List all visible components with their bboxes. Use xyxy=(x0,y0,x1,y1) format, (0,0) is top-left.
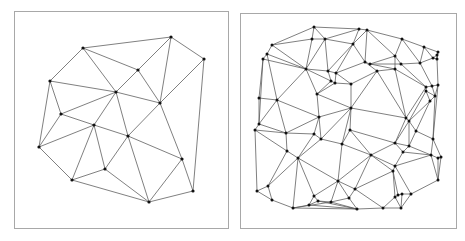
mesh-edge xyxy=(355,189,383,208)
mesh-edge xyxy=(437,59,438,85)
mesh-vertex xyxy=(271,44,274,47)
mesh-vertex xyxy=(370,154,373,157)
mesh-edge xyxy=(409,91,426,121)
mesh-edge xyxy=(438,157,441,180)
mesh-vertex xyxy=(401,193,404,196)
mesh-vertex xyxy=(369,63,372,66)
mesh-edge xyxy=(395,197,401,208)
mesh-edge xyxy=(321,139,342,144)
mesh-edge xyxy=(401,194,402,208)
mesh-edge xyxy=(351,71,377,84)
mesh-edge xyxy=(39,81,50,147)
mesh-vertex xyxy=(37,145,40,148)
mesh-edge xyxy=(160,37,171,103)
figure xyxy=(0,0,465,241)
mesh-vertex xyxy=(397,194,400,197)
mesh-edge xyxy=(317,94,319,117)
mesh-edge xyxy=(116,70,138,92)
mesh-edge xyxy=(335,73,336,83)
mesh-edge xyxy=(268,158,298,186)
mesh-vertex xyxy=(434,95,437,98)
mesh-edge xyxy=(72,180,149,202)
mesh-edge xyxy=(306,69,317,94)
mesh-vertex xyxy=(350,107,353,110)
mesh-vertex xyxy=(350,83,353,86)
mesh-edge xyxy=(72,125,94,180)
mesh-vertex xyxy=(59,112,62,115)
mesh-edge xyxy=(50,81,61,114)
mesh-vertex xyxy=(392,170,395,173)
mesh-vertex xyxy=(401,38,404,41)
mesh-edge xyxy=(420,58,433,63)
mesh-edge xyxy=(94,92,116,125)
mesh-edge xyxy=(325,39,353,44)
mesh-edge xyxy=(83,37,171,48)
mesh-edge xyxy=(353,44,365,62)
mesh-vertex xyxy=(317,200,320,203)
mesh-vertex xyxy=(437,179,440,182)
mesh-edge xyxy=(255,130,287,151)
mesh-vertex xyxy=(358,28,361,31)
mesh-vertex xyxy=(348,197,351,200)
mesh-edge xyxy=(409,101,430,121)
mesh-vertex xyxy=(432,138,435,141)
mesh-edge xyxy=(335,83,351,84)
mesh-vertex xyxy=(408,145,411,148)
mesh-edge xyxy=(325,29,359,39)
mesh-vertex xyxy=(114,90,117,93)
mesh-edge xyxy=(336,73,351,84)
mesh-vertex xyxy=(256,190,259,193)
mesh-vertex xyxy=(136,68,139,71)
mesh-edge xyxy=(272,200,293,208)
mesh-edge xyxy=(314,181,338,196)
mesh-vertex xyxy=(334,82,337,85)
mesh-vertex xyxy=(425,90,428,93)
mesh-vertex xyxy=(376,70,379,73)
mesh-vertex xyxy=(394,142,397,145)
mesh-vertex xyxy=(437,51,440,54)
mesh-vertex xyxy=(318,116,321,119)
mesh-vertex xyxy=(436,58,439,61)
mesh-edge xyxy=(105,136,128,169)
mesh-edge xyxy=(39,114,61,147)
mesh-vertex xyxy=(400,63,403,66)
mesh-vertex xyxy=(316,93,319,96)
mesh-edge xyxy=(259,98,277,100)
mesh-vertex xyxy=(258,123,261,126)
mesh-edge xyxy=(325,39,328,71)
mesh-vertex xyxy=(354,188,357,191)
mesh-edge xyxy=(72,169,105,180)
mesh-edge xyxy=(365,30,367,62)
mesh-edge xyxy=(355,155,371,189)
mesh-vertex xyxy=(394,55,397,58)
mesh-edge xyxy=(39,125,94,147)
mesh-vertex xyxy=(158,101,161,104)
mesh-vertex xyxy=(70,178,73,181)
mesh-edge xyxy=(286,133,314,134)
mesh-vertex xyxy=(337,180,340,183)
mesh-vertex xyxy=(352,43,355,46)
mesh-vertex xyxy=(126,134,129,137)
mesh-vertex xyxy=(364,61,367,64)
mesh-edge xyxy=(406,87,426,118)
mesh-edge xyxy=(351,108,406,118)
mesh-edge xyxy=(357,208,383,209)
mesh-vertex xyxy=(436,54,439,57)
mesh-edge xyxy=(401,63,420,64)
mesh-edge xyxy=(370,56,395,64)
mesh-vertex xyxy=(92,123,95,126)
mesh-edge xyxy=(395,39,402,56)
mesh-vertex xyxy=(266,53,269,56)
mesh-edge xyxy=(128,103,160,136)
mesh-edge xyxy=(277,100,286,133)
mesh-edge xyxy=(328,44,353,71)
mesh-edge xyxy=(94,125,128,136)
mesh-edge xyxy=(193,59,204,191)
mesh-edge xyxy=(298,158,314,196)
mesh-edge xyxy=(336,44,353,73)
mesh-edge xyxy=(338,155,371,181)
mesh-vertex xyxy=(382,207,385,210)
mesh-vertex xyxy=(254,129,257,132)
coarse-triangulation-panel xyxy=(15,12,229,229)
mesh-edge xyxy=(350,130,395,143)
